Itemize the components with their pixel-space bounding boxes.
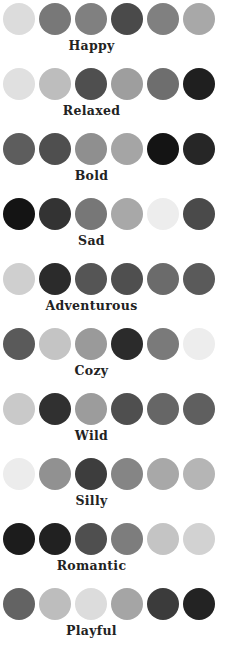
color-swatch[interactable] bbox=[3, 198, 35, 230]
color-swatch[interactable] bbox=[39, 393, 71, 425]
color-swatch[interactable] bbox=[111, 198, 143, 230]
palette-label: Playful bbox=[0, 623, 183, 638]
color-swatch[interactable] bbox=[111, 133, 143, 165]
color-swatch[interactable] bbox=[183, 68, 215, 100]
color-swatch[interactable] bbox=[183, 198, 215, 230]
palette-label: Cozy bbox=[0, 363, 183, 378]
swatch-strip bbox=[3, 68, 219, 100]
palette-label: Relaxed bbox=[0, 103, 183, 118]
color-swatch[interactable] bbox=[75, 588, 107, 620]
palette-row: Bold bbox=[0, 130, 247, 195]
color-swatch[interactable] bbox=[3, 523, 35, 555]
color-swatch[interactable] bbox=[39, 328, 71, 360]
palette-row: Cozy bbox=[0, 325, 247, 390]
swatch-strip bbox=[3, 393, 219, 425]
palette-label: Adventurous bbox=[0, 298, 183, 313]
color-swatch[interactable] bbox=[147, 133, 179, 165]
color-swatch[interactable] bbox=[111, 68, 143, 100]
color-swatch[interactable] bbox=[183, 133, 215, 165]
color-swatch[interactable] bbox=[111, 393, 143, 425]
swatch-strip bbox=[3, 523, 219, 555]
color-swatch[interactable] bbox=[183, 458, 215, 490]
swatch-strip bbox=[3, 588, 219, 620]
color-swatch[interactable] bbox=[147, 393, 179, 425]
color-swatch[interactable] bbox=[111, 328, 143, 360]
color-swatch[interactable] bbox=[3, 68, 35, 100]
swatch-strip bbox=[3, 458, 219, 490]
palette-row: Sad bbox=[0, 195, 247, 260]
palette-row: Wild bbox=[0, 390, 247, 455]
color-swatch[interactable] bbox=[75, 198, 107, 230]
color-swatch[interactable] bbox=[111, 3, 143, 35]
palette-label: Romantic bbox=[0, 558, 183, 573]
color-swatch[interactable] bbox=[147, 328, 179, 360]
swatch-strip bbox=[3, 3, 219, 35]
color-swatch[interactable] bbox=[111, 458, 143, 490]
color-swatch[interactable] bbox=[183, 263, 215, 295]
palette-row: Romantic bbox=[0, 520, 247, 585]
color-swatch[interactable] bbox=[75, 133, 107, 165]
color-swatch[interactable] bbox=[75, 458, 107, 490]
color-swatch[interactable] bbox=[3, 393, 35, 425]
color-swatch[interactable] bbox=[75, 328, 107, 360]
color-swatch[interactable] bbox=[183, 588, 215, 620]
color-swatch[interactable] bbox=[111, 588, 143, 620]
palette-label: Bold bbox=[0, 168, 183, 183]
color-swatch[interactable] bbox=[147, 198, 179, 230]
color-swatch[interactable] bbox=[183, 523, 215, 555]
palette-row: Relaxed bbox=[0, 65, 247, 130]
color-swatch[interactable] bbox=[3, 328, 35, 360]
color-swatch[interactable] bbox=[147, 523, 179, 555]
color-swatch[interactable] bbox=[39, 263, 71, 295]
color-swatch[interactable] bbox=[147, 3, 179, 35]
color-swatch[interactable] bbox=[75, 263, 107, 295]
swatch-strip bbox=[3, 198, 219, 230]
color-swatch[interactable] bbox=[111, 263, 143, 295]
color-swatch[interactable] bbox=[39, 133, 71, 165]
color-swatch[interactable] bbox=[147, 68, 179, 100]
color-swatch[interactable] bbox=[147, 458, 179, 490]
palette-label: Happy bbox=[0, 38, 183, 53]
color-swatch[interactable] bbox=[147, 263, 179, 295]
palette-row: Adventurous bbox=[0, 260, 247, 325]
swatch-strip bbox=[3, 133, 219, 165]
color-swatch[interactable] bbox=[3, 133, 35, 165]
color-swatch[interactable] bbox=[39, 198, 71, 230]
color-swatch[interactable] bbox=[111, 523, 143, 555]
color-swatch[interactable] bbox=[39, 588, 71, 620]
color-swatch[interactable] bbox=[39, 458, 71, 490]
palette-row: Silly bbox=[0, 455, 247, 520]
color-swatch[interactable] bbox=[3, 588, 35, 620]
color-swatch[interactable] bbox=[39, 68, 71, 100]
palette-board: HappyRelaxedBoldSadAdventurousCozyWildSi… bbox=[0, 0, 247, 655]
swatch-strip bbox=[3, 263, 219, 295]
color-swatch[interactable] bbox=[3, 263, 35, 295]
color-swatch[interactable] bbox=[183, 393, 215, 425]
color-swatch[interactable] bbox=[3, 3, 35, 35]
color-swatch[interactable] bbox=[39, 523, 71, 555]
color-swatch[interactable] bbox=[75, 3, 107, 35]
palette-label: Silly bbox=[0, 493, 183, 508]
color-swatch[interactable] bbox=[183, 3, 215, 35]
color-swatch[interactable] bbox=[39, 3, 71, 35]
color-swatch[interactable] bbox=[147, 588, 179, 620]
palette-row: Playful bbox=[0, 585, 247, 650]
color-swatch[interactable] bbox=[3, 458, 35, 490]
swatch-strip bbox=[3, 328, 219, 360]
color-swatch[interactable] bbox=[75, 68, 107, 100]
palette-label: Sad bbox=[0, 233, 183, 248]
color-swatch[interactable] bbox=[75, 523, 107, 555]
color-swatch[interactable] bbox=[183, 328, 215, 360]
palette-row: Happy bbox=[0, 0, 247, 65]
palette-label: Wild bbox=[0, 428, 183, 443]
color-swatch[interactable] bbox=[75, 393, 107, 425]
